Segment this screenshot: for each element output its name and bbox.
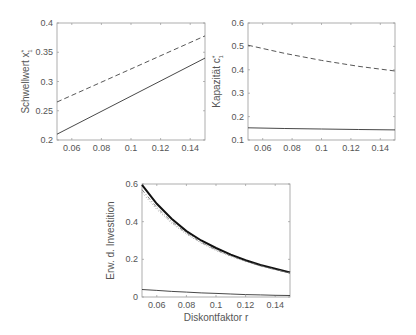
series-thick-solid [142, 185, 290, 273]
series-solid [248, 128, 395, 130]
x-axis-label: Diskontfaktor r [184, 312, 249, 323]
y-tick-label: 0.3 [40, 77, 53, 87]
y-tick-label: 0 [133, 292, 138, 302]
series-thin-solid [142, 290, 290, 296]
x-tick-label: 0.08 [178, 300, 196, 310]
series-dashed [57, 36, 205, 102]
y-tick-label: 0.4 [40, 18, 53, 28]
x-tick-label: 0.06 [254, 143, 272, 153]
axes-box [248, 23, 395, 140]
y-tick-label: 0.4 [231, 65, 244, 75]
y-axis-label: Erw. d. Investition [105, 201, 116, 279]
x-tick-label: 0.1 [315, 143, 328, 153]
series-dash-dot [142, 190, 290, 273]
x-tick-label: 0.08 [93, 143, 111, 153]
y-axis-label: Kapazität c*1 [211, 55, 225, 108]
y-tick-label: 0.35 [35, 47, 53, 57]
y-tick-label: 0.5 [231, 41, 244, 51]
x-tick-label: 0.06 [148, 300, 166, 310]
x-tick-label: 0.12 [152, 143, 170, 153]
figure: 0.060.080.10.120.140.20.250.30.350.4Schw… [0, 0, 416, 335]
y-tick-label: 0.2 [231, 112, 244, 122]
y-tick-label: 0.6 [125, 179, 138, 189]
series-dotted [142, 193, 290, 274]
series-dashed [248, 45, 395, 71]
x-tick-label: 0.1 [210, 300, 223, 310]
x-tick-label: 0.14 [181, 143, 199, 153]
y-tick-label: 0.4 [125, 217, 138, 227]
x-tick-label: 0.12 [342, 143, 360, 153]
y-tick-label: 0.3 [231, 88, 244, 98]
x-tick-label: 0.06 [63, 143, 81, 153]
x-tick-label: 0.08 [283, 143, 301, 153]
x-tick-label: 0.14 [266, 300, 284, 310]
plot-schwellwert: 0.060.080.10.120.140.20.250.30.350.4Schw… [20, 18, 206, 153]
x-tick-label: 0.12 [237, 300, 255, 310]
x-tick-label: 0.1 [125, 143, 138, 153]
y-tick-label: 0.25 [35, 106, 53, 116]
plot-kapazitaet: 0.060.080.10.120.140.10.20.30.40.50.6Kap… [211, 18, 396, 153]
y-tick-label: 0.2 [40, 135, 53, 145]
y-tick-label: 0.1 [231, 135, 244, 145]
axes-box [142, 184, 290, 297]
x-tick-label: 0.14 [372, 143, 390, 153]
y-axis-label: Schwellwert x*1 [20, 49, 34, 114]
series-solid [57, 58, 205, 134]
y-tick-label: 0.2 [125, 254, 138, 264]
y-tick-label: 0.6 [231, 18, 244, 28]
plot-investition: 0.060.080.10.120.1400.20.40.6Erw. d. Inv… [105, 179, 290, 323]
